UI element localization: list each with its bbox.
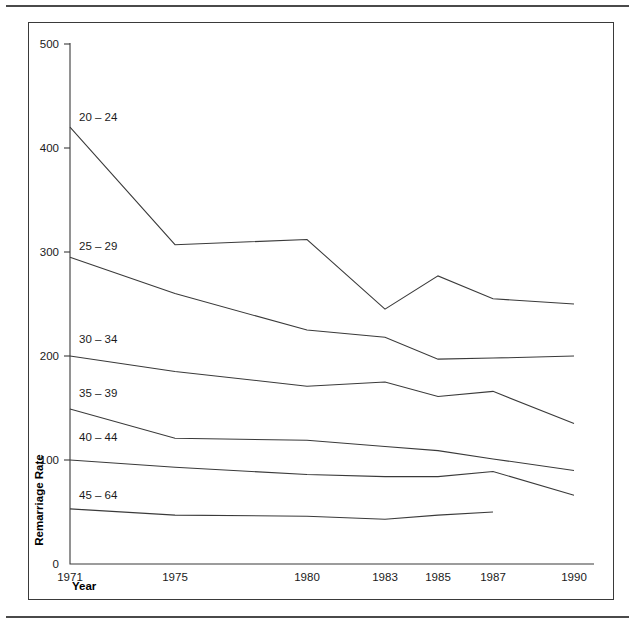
x-axis-title: Year [72, 580, 97, 592]
axes-group [70, 43, 594, 564]
series-line-3539 [70, 409, 574, 470]
series-label: 45 – 64 [79, 489, 118, 501]
series-label: 35 – 39 [79, 387, 117, 399]
series-label: 30 – 34 [79, 333, 118, 345]
series-line-2024 [70, 127, 574, 309]
bottom-rule [6, 616, 629, 618]
x-tick-label: 1987 [480, 571, 506, 583]
top-rule [6, 5, 629, 7]
y-tick-label: 500 [40, 38, 59, 50]
chart-plot-frame: 0100200300400500 19711975198019831985198… [28, 22, 614, 600]
series-label: 40 – 44 [79, 431, 118, 443]
x-tick-label: 1975 [162, 571, 188, 583]
y-tick-label: 0 [53, 558, 59, 570]
x-tick-label: 1983 [372, 571, 398, 583]
series-line-4564 [70, 509, 493, 519]
x-tick-label: 1990 [561, 571, 587, 583]
line-chart: 0100200300400500 19711975198019831985198… [29, 23, 613, 599]
y-axis-title: Remarriage Rate [33, 454, 45, 545]
y-tick-label: 400 [40, 142, 59, 154]
x-tick-label: 1985 [425, 571, 451, 583]
series-line-4044 [70, 460, 574, 495]
figure-canvas: 0100200300400500 19711975198019831985198… [0, 0, 635, 628]
series-labels: 20 – 2425 – 2930 – 3435 – 3940 – 4445 – … [79, 111, 118, 501]
series-line-3034 [70, 356, 574, 424]
series-label: 20 – 24 [79, 111, 118, 123]
x-tick-label: 1980 [294, 571, 320, 583]
series-label: 25 – 29 [79, 240, 117, 252]
y-tick-label: 200 [40, 350, 59, 362]
x-axis-ticks: 1971197519801983198519871990 [57, 571, 587, 583]
series-lines [70, 127, 574, 519]
series-line-2529 [70, 257, 574, 359]
y-tick-label: 300 [40, 246, 59, 258]
